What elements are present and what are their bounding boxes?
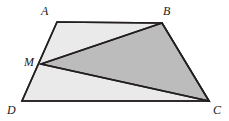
vertex-label-a: A [41,5,48,17]
geometry-figure: A B M D C [0,0,229,121]
geometry-canvas [0,0,229,121]
vertex-label-c: C [213,104,221,116]
vertex-label-b: B [163,5,170,17]
vertex-label-d: D [7,104,16,116]
vertex-label-m: M [24,56,34,68]
